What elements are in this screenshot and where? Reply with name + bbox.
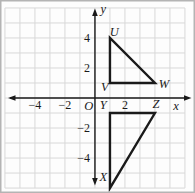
origin-label: O xyxy=(84,99,93,113)
x-tick-label: 2 xyxy=(122,98,128,112)
coordinate-plane-figure: −4−2242−2−4xyOUVWYZX xyxy=(0,0,195,193)
x-axis-label: x xyxy=(172,99,179,113)
vertex-label-X: X xyxy=(98,170,108,184)
y-tick-label: −4 xyxy=(77,151,90,165)
vertex-label-U: U xyxy=(110,25,120,39)
x-tick-label: −4 xyxy=(29,98,42,112)
x-tick-label: −2 xyxy=(59,98,72,112)
y-tick-label: −2 xyxy=(77,121,90,135)
vertex-label-V: V xyxy=(101,80,110,94)
y-tick-label: 2 xyxy=(84,61,90,75)
y-axis-label: y xyxy=(98,2,106,16)
figure-background xyxy=(0,0,195,193)
vertex-label-Z: Z xyxy=(153,97,161,111)
coordinate-plane: −4−2242−2−4xyOUVWYZX xyxy=(0,0,195,193)
y-tick-label: 4 xyxy=(84,31,90,45)
vertex-label-W: W xyxy=(159,77,171,91)
